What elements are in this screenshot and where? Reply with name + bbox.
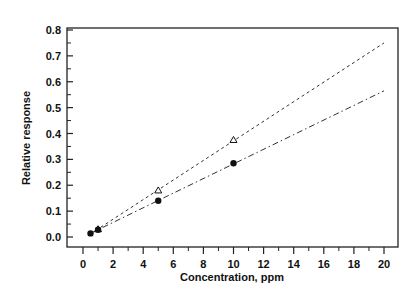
x-tick-label: 10 xyxy=(227,258,239,270)
x-tick-label: 0 xyxy=(80,258,86,270)
y-tick-label: 0.2 xyxy=(46,179,61,191)
x-tick-label: 18 xyxy=(348,258,360,270)
y-tick-label: 0.3 xyxy=(46,153,61,165)
x-tick-label: 2 xyxy=(110,258,116,270)
y-tick-label: 0.5 xyxy=(46,102,61,114)
x-tick-label: 6 xyxy=(170,258,176,270)
x-tick-label: 16 xyxy=(318,258,330,270)
y-tick-label: 0.6 xyxy=(46,76,61,88)
y-axis: 0.00.10.20.30.40.50.60.70.8 xyxy=(46,24,73,243)
x-tick-label: 4 xyxy=(140,258,147,270)
triangle-marker xyxy=(230,136,237,142)
y-axis-title: Relative response xyxy=(20,91,32,185)
data-markers xyxy=(87,136,237,236)
y-tick-label: 0.4 xyxy=(46,128,62,140)
circle-marker xyxy=(155,198,161,204)
x-axis: 02468101214161820 xyxy=(80,247,390,270)
y-tick-label: 0.0 xyxy=(46,231,61,243)
circle-marker xyxy=(87,230,93,236)
fit-line xyxy=(91,91,384,234)
x-axis-title: Concentration, ppm xyxy=(180,271,284,283)
x-tick-label: 14 xyxy=(288,258,301,270)
triangle-marker xyxy=(155,187,162,193)
y-tick-label: 0.8 xyxy=(46,24,61,36)
circle-marker xyxy=(230,160,236,166)
x-tick-label: 12 xyxy=(257,258,269,270)
x-tick-label: 20 xyxy=(378,258,390,270)
x-tick-label: 8 xyxy=(200,258,206,270)
calibration-chart: 0.00.10.20.30.40.50.60.70.8 024681012141… xyxy=(0,0,414,308)
y-tick-label: 0.1 xyxy=(46,205,61,217)
y-tick-label: 0.7 xyxy=(46,50,61,62)
circle-marker xyxy=(95,227,101,233)
fit-lines xyxy=(91,43,384,234)
fit-line xyxy=(91,43,384,234)
